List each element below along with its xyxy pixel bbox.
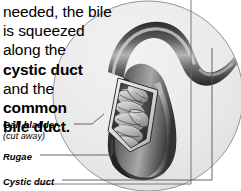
body-line-5: and the <box>3 79 111 98</box>
body-text-block: needed, the bile is squeezed along the c… <box>3 2 111 136</box>
callout-label-cystic-duct: Cystic duct <box>3 176 54 187</box>
callout-label-gall-bladder: Gall bladder <box>3 119 58 130</box>
callout-label-rugae: Rugae <box>3 151 32 162</box>
callout-sublabel-cut-away: (cut away) <box>3 131 45 141</box>
figure-panel: needed, the bile is squeezed along the c… <box>0 0 241 191</box>
body-line-6: common <box>3 98 111 117</box>
body-line-2: is squeezed <box>3 21 111 40</box>
body-line-1: needed, the bile <box>3 2 111 21</box>
body-line-4: cystic duct <box>3 60 111 79</box>
body-line-3: along the <box>3 40 111 59</box>
